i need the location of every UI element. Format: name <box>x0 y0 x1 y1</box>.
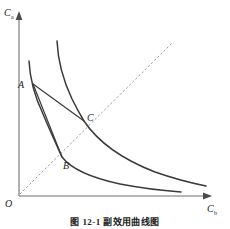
y-axis-label-subscript: a <box>11 14 14 20</box>
y-axis-arrowhead <box>16 11 23 20</box>
indifference-curve-upper <box>57 41 206 186</box>
x-axis-label: C <box>207 203 214 214</box>
point-label-b: B <box>63 160 69 171</box>
y-axis-label: C <box>4 7 11 18</box>
indifference-curve-diagram: A B C O C a C b <box>0 0 230 229</box>
figure-container: A B C O C a C b 图 12-1 副效用曲线图 <box>0 0 230 229</box>
point-label-a: A <box>17 79 25 90</box>
x-axis-arrowhead <box>203 193 212 200</box>
origin-label: O <box>5 198 12 209</box>
diagonal-dashed-ray <box>20 43 172 194</box>
point-label-c: C <box>87 112 94 123</box>
figure-caption: 图 12-1 副效用曲线图 <box>0 216 230 229</box>
